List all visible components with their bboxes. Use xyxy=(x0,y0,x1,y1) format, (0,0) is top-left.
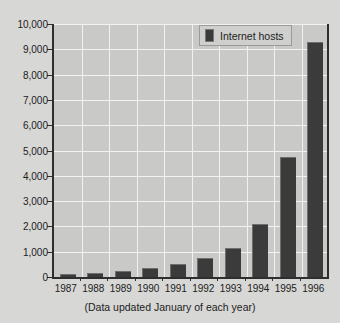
x-axis-tick-mark xyxy=(80,277,81,281)
bar xyxy=(307,42,323,277)
y-axis-tick-label: 10,000 xyxy=(17,19,48,30)
x-axis-tick-mark xyxy=(135,277,136,281)
x-axis-tick-label: 1990 xyxy=(137,283,159,294)
x-axis-tick-mark xyxy=(107,277,108,281)
bar xyxy=(280,157,296,277)
x-axis-tick-label: 1989 xyxy=(110,283,132,294)
chart-figure: 01,0002,0003,0004,0005,0006,0007,0008,00… xyxy=(0,0,340,323)
x-axis-tick-mark xyxy=(162,277,163,281)
y-axis-tick-label: 8,000 xyxy=(23,69,48,80)
bar-series-internet-hosts xyxy=(54,24,329,277)
x-axis-tick-label: 1993 xyxy=(220,283,242,294)
y-axis-tick-label: 0 xyxy=(42,272,48,283)
bar xyxy=(115,271,131,277)
bar xyxy=(252,224,268,277)
legend-swatch-icon xyxy=(205,29,214,42)
x-axis-tick-label: 1995 xyxy=(275,283,297,294)
x-axis-tick-label: 1987 xyxy=(55,283,77,294)
legend-label: Internet hosts xyxy=(220,30,284,42)
y-axis-tick-label: 5,000 xyxy=(23,145,48,156)
bar xyxy=(225,248,241,277)
x-axis-tick-label: 1991 xyxy=(165,283,187,294)
x-axis-tick-mark xyxy=(272,277,273,281)
chart-caption: (Data updated January of each year) xyxy=(0,301,340,313)
x-axis-tick-mark xyxy=(300,277,301,281)
y-axis-tick-label: 4,000 xyxy=(23,170,48,181)
bar xyxy=(142,268,158,277)
y-axis-tick-label: 6,000 xyxy=(23,120,48,131)
plot-area xyxy=(52,24,329,279)
bar xyxy=(87,273,103,277)
y-axis-tick-label: 3,000 xyxy=(23,196,48,207)
x-axis-tick-label: 1988 xyxy=(82,283,104,294)
x-axis-tick-mark xyxy=(190,277,191,281)
y-axis-tick-label: 7,000 xyxy=(23,94,48,105)
y-axis-tick-label: 1,000 xyxy=(23,246,48,257)
bar xyxy=(197,258,213,277)
x-axis-tick-mark xyxy=(245,277,246,281)
x-axis-tick-label: 1996 xyxy=(302,283,324,294)
x-axis-tick-label: 1992 xyxy=(192,283,214,294)
x-axis-tick-mark xyxy=(217,277,218,281)
chart-legend: Internet hosts xyxy=(199,25,292,46)
bar xyxy=(170,264,186,277)
y-axis-tick-label: 9,000 xyxy=(23,44,48,55)
bar xyxy=(60,274,76,277)
x-axis-tick-label: 1994 xyxy=(247,283,269,294)
y-axis-tick-label: 2,000 xyxy=(23,221,48,232)
plot-right-border xyxy=(327,24,329,279)
